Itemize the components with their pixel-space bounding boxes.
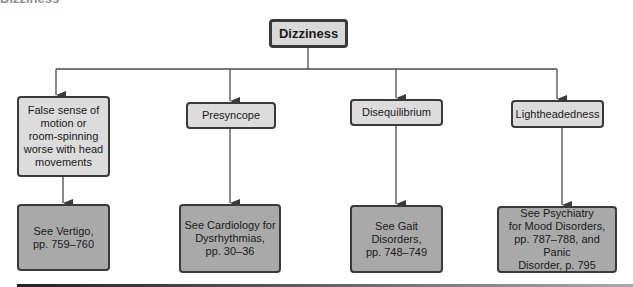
root-label: Dizziness bbox=[279, 27, 338, 40]
category-node-disequilibrium: Disequilibrium bbox=[350, 99, 443, 126]
category-node-presyncope: Presyncope bbox=[186, 102, 276, 129]
category-label: Presyncope bbox=[202, 109, 260, 122]
referral-node-psychiatry: See Psychiatry for Mood Disorders, pp. 7… bbox=[497, 206, 617, 273]
category-label: Lightheadedness bbox=[516, 108, 600, 121]
referral-label: See Gait Disorders, pp. 748–749 bbox=[366, 220, 427, 259]
category-node-vertigo-symptoms: False sense of motion or room-spinning w… bbox=[17, 96, 110, 177]
referral-node-cardiology: See Cardiology for Dysrhythmias, pp. 30–… bbox=[179, 204, 281, 273]
category-label: False sense of motion or room-spinning w… bbox=[24, 104, 104, 169]
referral-node-gait-disorders: See Gait Disorders, pp. 748–749 bbox=[350, 205, 443, 273]
category-node-lightheadedness: Lightheadedness bbox=[511, 100, 604, 128]
referral-label: See Psychiatry for Mood Disorders, pp. 7… bbox=[499, 207, 615, 272]
referral-label: See Vertigo, pp. 759–760 bbox=[33, 225, 94, 251]
referral-label: See Cardiology for Dysrhythmias, pp. 30–… bbox=[184, 219, 275, 258]
referral-node-vertigo: See Vertigo, pp. 759–760 bbox=[17, 204, 110, 271]
root-node-dizziness: Dizziness bbox=[269, 19, 348, 48]
category-label: Disequilibrium bbox=[362, 106, 431, 119]
